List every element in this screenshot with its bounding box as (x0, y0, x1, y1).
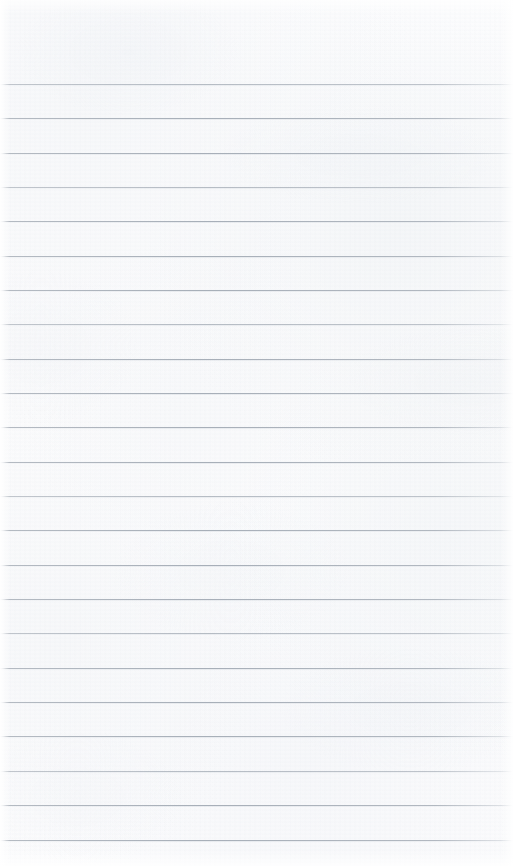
ruled-line (0, 462, 513, 463)
ruled-line (0, 805, 513, 806)
ruled-line (0, 668, 513, 669)
ruled-line (0, 256, 513, 257)
ruled-line (0, 633, 513, 634)
ruled-line (0, 771, 513, 772)
lined-paper-page (0, 0, 513, 866)
ruled-line (0, 84, 513, 85)
ruled-line (0, 840, 513, 841)
ruled-lines-group (0, 0, 513, 866)
ruled-line (0, 324, 513, 325)
ruled-line (0, 118, 513, 119)
ruled-line (0, 702, 513, 703)
ruled-line (0, 393, 513, 394)
ruled-line (0, 530, 513, 531)
ruled-line (0, 187, 513, 188)
ruled-line (0, 736, 513, 737)
ruled-line (0, 496, 513, 497)
ruled-line (0, 427, 513, 428)
ruled-line (0, 153, 513, 154)
ruled-line (0, 599, 513, 600)
ruled-line (0, 359, 513, 360)
ruled-line (0, 221, 513, 222)
ruled-line (0, 290, 513, 291)
ruled-line (0, 565, 513, 566)
